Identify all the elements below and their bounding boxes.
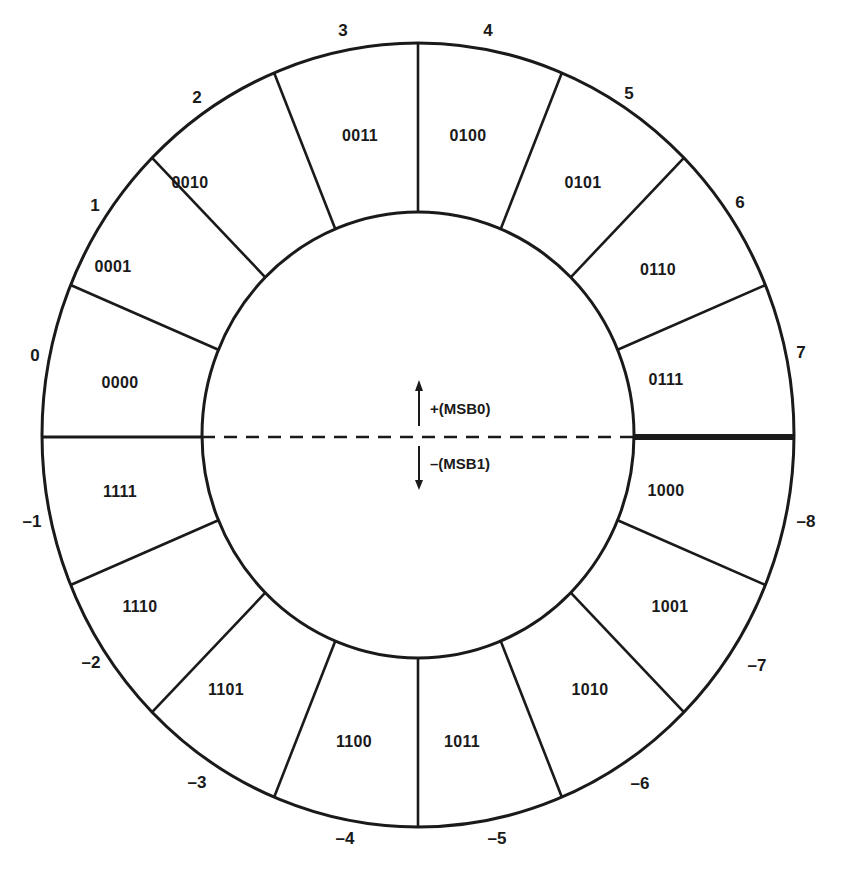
binary-code-label: 1110	[122, 599, 157, 615]
segment-divider-line	[71, 285, 219, 350]
binary-code-label: 1011	[444, 734, 480, 750]
decimal-value-label: 2	[192, 89, 201, 106]
decimal-value-label: 3	[338, 22, 347, 39]
binary-code-label: 0100	[450, 128, 487, 144]
segment-divider-line	[618, 285, 766, 350]
decimal-value-label: 0	[30, 347, 39, 364]
binary-code-label: 1111	[103, 484, 137, 500]
segment-divider-line	[618, 520, 766, 585]
decimal-value-label: 5	[624, 85, 633, 102]
positive-msb0-label: +(MSB0)	[430, 401, 490, 416]
segment-divider-line	[501, 641, 562, 797]
binary-code-label: 1010	[572, 682, 609, 698]
segment-divider-line	[274, 73, 335, 229]
binary-code-label: 0011	[342, 128, 378, 144]
decimal-value-label: 1	[90, 197, 99, 214]
binary-code-label: 1101	[208, 682, 244, 698]
decimal-value-label: 4	[483, 22, 492, 39]
binary-code-label: 0110	[640, 262, 676, 278]
binary-code-label: 0000	[102, 375, 139, 391]
segment-divider-line	[274, 641, 335, 797]
binary-code-label: 1000	[648, 483, 685, 499]
segment-divider-line	[71, 520, 219, 585]
decimal-value-label: –4	[336, 830, 355, 847]
decimal-value-label: –1	[23, 513, 42, 530]
segment-divider-line	[152, 158, 265, 277]
decimal-value-label: –6	[631, 775, 650, 792]
decimal-value-label: –3	[188, 774, 207, 791]
negative-msb1-label: –(MSB1)	[430, 456, 490, 471]
segment-divider-line	[501, 73, 562, 229]
number-circle-diagram	[0, 0, 842, 871]
decimal-value-label: 6	[735, 194, 744, 211]
binary-code-label: 1100	[336, 734, 372, 750]
binary-code-label: 0111	[648, 372, 683, 388]
decimal-value-label: –8	[797, 513, 816, 530]
decimal-value-label: 7	[796, 344, 805, 361]
binary-code-label: 0101	[565, 175, 602, 191]
up-arrow-icon	[415, 380, 423, 426]
down-arrow-icon	[415, 446, 423, 490]
decimal-value-label: –5	[488, 830, 507, 847]
decimal-value-label: –2	[82, 654, 101, 671]
binary-code-label: 0001	[95, 259, 132, 275]
decimal-value-label: –7	[748, 657, 767, 674]
binary-code-label: 0010	[172, 175, 209, 191]
binary-code-label: 1001	[652, 599, 689, 615]
inner-circle	[202, 212, 634, 658]
